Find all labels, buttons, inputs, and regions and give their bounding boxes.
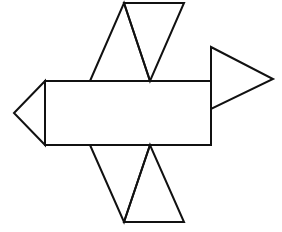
- bottom-right-triangle-face: [124, 145, 184, 222]
- prism-net-diagram: [0, 0, 282, 232]
- left-triangle-face: [14, 81, 45, 145]
- bottom-left-triangle-face: [90, 145, 150, 222]
- top-left-triangle-face: [90, 3, 150, 81]
- rectangle-face: [45, 81, 211, 145]
- right-triangle-face: [211, 47, 273, 109]
- top-right-triangle-face: [124, 3, 184, 81]
